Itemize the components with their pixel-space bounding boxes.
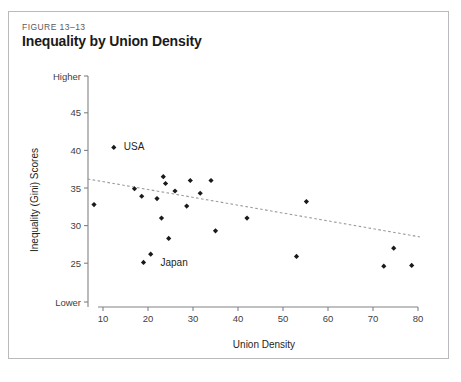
figure-number: FIGURE 13–13 — [22, 22, 86, 32]
figure-root: FIGURE 13–13 Inequality by Union Density… — [0, 0, 461, 382]
figure-border — [8, 11, 449, 359]
figure-title: Inequality by Union Density — [22, 33, 202, 49]
